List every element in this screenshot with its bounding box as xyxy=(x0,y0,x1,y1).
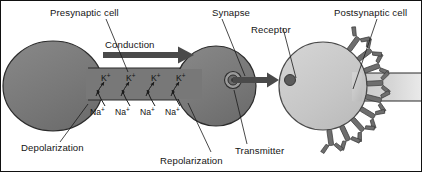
label-repolarization: Repolarization xyxy=(160,155,223,166)
conduction-arrow-shaft xyxy=(103,52,178,58)
neurotransmitter-dot xyxy=(285,75,296,86)
presynaptic-axon-soma-seam xyxy=(86,69,102,99)
label-presynaptic-cell: Presynaptic cell xyxy=(50,7,119,18)
label-conduction: Conduction xyxy=(105,39,155,50)
synapse-diagram-figure: K+ K+ K+ K+ Na+ Na+ Na+ Na+ Presynaptic … xyxy=(0,0,422,172)
transmitter-release-arrow-shaft xyxy=(233,77,267,83)
label-transmitter: Transmitter xyxy=(235,145,285,156)
label-receptor: Receptor xyxy=(251,24,291,35)
label-postsynaptic-cell: Postsynaptic cell xyxy=(334,7,407,18)
label-synapse: Synapse xyxy=(212,7,250,18)
label-depolarization: Depolarization xyxy=(21,142,84,153)
